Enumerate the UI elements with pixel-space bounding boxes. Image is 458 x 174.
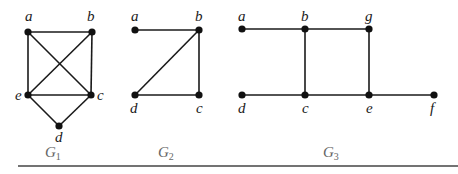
vertex-b	[301, 25, 308, 32]
vertex-b	[195, 26, 202, 33]
graph-figure: abecdG1abdcG2abgdcefG3	[0, 0, 458, 174]
vertex-label-d: d	[55, 129, 63, 145]
vertex-c	[87, 91, 94, 98]
vertex-label-d: d	[130, 100, 138, 116]
vertex-g	[365, 25, 372, 32]
vertex-e	[365, 91, 372, 98]
vertex-label-c: c	[302, 100, 309, 116]
vertex-c	[195, 91, 202, 98]
vertex-f	[430, 91, 437, 98]
vertex-label-f: f	[430, 100, 436, 116]
vertex-label-d: d	[238, 100, 246, 116]
vertex-label-a: a	[238, 8, 246, 24]
vertex-label-e: e	[15, 87, 22, 103]
graph-title-g3: G3	[323, 144, 339, 162]
vertex-label-g: g	[365, 8, 373, 24]
vertex-d	[131, 91, 138, 98]
edge-b-c	[91, 32, 92, 95]
graph-title-g2: G2	[158, 144, 174, 162]
edge-e-d	[28, 95, 59, 126]
graph-g3: abgdcefG3	[238, 8, 438, 162]
vertex-label-c: c	[196, 100, 203, 116]
vertex-label-b: b	[87, 8, 95, 24]
vertex-label-c: c	[97, 87, 104, 103]
graph-title-g1: G1	[45, 144, 61, 162]
vertex-a	[238, 25, 245, 32]
graph-g1: abecdG1	[15, 8, 104, 162]
vertex-a	[24, 28, 31, 35]
graph-g2: abdcG2	[130, 8, 203, 162]
vertex-d	[238, 91, 245, 98]
edge-b-d	[135, 30, 199, 95]
vertex-c	[301, 91, 308, 98]
vertex-b	[88, 28, 95, 35]
vertex-label-a: a	[131, 8, 139, 24]
vertex-label-b: b	[301, 8, 309, 24]
vertex-label-a: a	[25, 8, 33, 24]
edge-c-d	[59, 95, 91, 126]
vertex-label-b: b	[195, 8, 203, 24]
vertex-a	[131, 26, 138, 33]
vertex-e	[24, 91, 31, 98]
vertex-label-e: e	[366, 100, 373, 116]
